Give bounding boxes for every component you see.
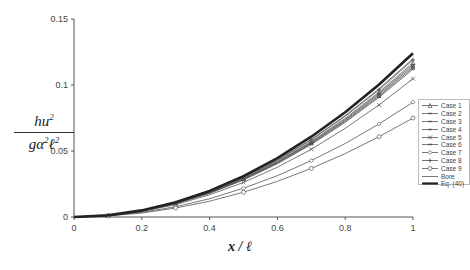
legend-label: Case 4 [441, 126, 462, 133]
legend-item: Case 4 [421, 125, 469, 133]
legend-label: Case 8 [441, 157, 462, 164]
x-tick-label: 0.2 [136, 223, 149, 233]
legend-swatch-icon [421, 110, 439, 117]
series-lines [74, 53, 415, 218]
legend-label: Case 3 [441, 118, 462, 125]
legend-swatch-icon [421, 149, 439, 156]
axes [71, 19, 413, 220]
x-tick-label: 0.4 [203, 223, 216, 233]
legend-swatch-icon [421, 157, 439, 164]
legend-swatch-icon [421, 165, 439, 172]
y-tick-label: 0.15 [50, 14, 68, 24]
legend-item: Eq. (40) [421, 180, 469, 188]
legend-label: Case 5 [441, 134, 462, 141]
series-case-4 [74, 68, 415, 217]
legend-label: Eq. (40) [441, 180, 464, 187]
y-tick-label: 0.1 [55, 80, 68, 90]
legend-label: Bore [441, 173, 455, 180]
x-tick-label: 0.6 [271, 223, 284, 233]
x-tick-label: 1 [410, 223, 415, 233]
legend-swatch-icon [421, 118, 439, 125]
x-axis-label: x / ℓ [228, 239, 252, 255]
x-tick-labels: 00.20.40.60.81 [71, 223, 415, 233]
legend-item: Case 5 [421, 133, 469, 141]
legend-item: Case 9 [421, 164, 469, 172]
legend-item: Case 7 [421, 149, 469, 157]
legend-swatch-icon [421, 134, 439, 141]
y-label-numerator: hu2 [14, 112, 74, 133]
legend-item: Case 6 [421, 141, 469, 149]
legend-swatch-icon [421, 141, 439, 148]
y-axis-label: hu2 gα2ℓ2 [14, 112, 74, 153]
legend: Case 1Case 2Case 3Case 4Case 5Case 6Case… [418, 99, 470, 185]
legend-label: Case 2 [441, 110, 462, 117]
legend-swatch-icon [421, 126, 439, 133]
legend-label: Case 9 [441, 165, 462, 172]
x-tick-label: 0 [71, 223, 76, 233]
legend-swatch-icon [421, 173, 439, 180]
legend-swatch-icon [421, 102, 439, 109]
legend-label: Case 7 [441, 149, 462, 156]
y-tick-label: 0 [63, 212, 68, 222]
series-case-7 [74, 100, 415, 218]
x-tick-label: 0.8 [339, 223, 352, 233]
series-case-3 [74, 66, 415, 217]
series-case-9 [74, 116, 415, 218]
legend-item: Bore [421, 172, 469, 180]
y-label-denominator: gα2ℓ2 [14, 133, 74, 153]
legend-label: Case 6 [441, 141, 462, 148]
legend-item: Case 1 [421, 102, 469, 110]
series-case-6 [74, 69, 415, 217]
legend-item: Case 8 [421, 157, 469, 165]
legend-label: Case 1 [441, 102, 462, 109]
legend-item: Case 2 [421, 110, 469, 118]
legend-swatch-icon [421, 180, 439, 187]
legend-item: Case 3 [421, 118, 469, 126]
